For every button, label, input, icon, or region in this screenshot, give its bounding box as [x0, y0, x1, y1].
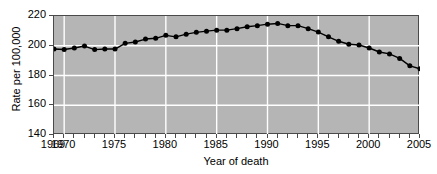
x-axis-tick-mark [84, 134, 85, 138]
y-axis-tick-label: 160 [12, 98, 46, 109]
x-axis-tick-label: 1975 [102, 139, 126, 150]
x-axis-tick-mark [155, 134, 156, 138]
data-point-marker [407, 63, 412, 68]
x-axis-tick-mark [317, 134, 318, 138]
x-axis-tick-mark [399, 134, 400, 138]
x-axis-title: Year of death [53, 155, 419, 167]
data-point-marker [133, 40, 138, 45]
line-chart-figure: Rate per 100,000 220200180160140 1969197… [0, 0, 437, 174]
x-axis-tick-mark [338, 134, 339, 138]
data-point-marker [346, 42, 351, 47]
x-axis-tick-mark [175, 134, 176, 138]
data-point-marker [153, 36, 158, 41]
x-axis-tick-mark [368, 134, 369, 138]
data-point-marker [316, 30, 321, 35]
data-point-marker [214, 28, 219, 33]
x-axis-tick-label: 1980 [153, 139, 177, 150]
x-axis-tick-mark [94, 134, 95, 138]
x-axis-tick-mark [63, 134, 64, 138]
x-axis-tick-mark [206, 134, 207, 138]
x-axis-tick-mark [297, 134, 298, 138]
x-axis-tick-mark [73, 134, 74, 138]
data-point-marker [326, 34, 331, 39]
data-point-marker [377, 50, 382, 55]
x-axis-tick-label: 1995 [305, 139, 329, 150]
data-point-marker [123, 41, 128, 46]
y-axis-tick-label: 180 [12, 69, 46, 80]
x-axis-tick-label: 1970 [51, 139, 75, 150]
x-axis-tick-mark [328, 134, 329, 138]
x-axis-tick-mark [236, 134, 237, 138]
x-axis-tick-mark [114, 134, 115, 138]
data-point-marker [54, 47, 57, 52]
x-axis-tick-mark [409, 134, 410, 138]
x-axis-tick-mark [134, 134, 135, 138]
data-point-marker [204, 29, 209, 34]
x-axis-tick-mark [287, 134, 288, 138]
data-point-marker [255, 23, 260, 28]
x-axis-tick-label: 2000 [356, 139, 380, 150]
data-point-marker [245, 24, 250, 29]
x-axis-tick-mark [185, 134, 186, 138]
data-point-marker [113, 47, 118, 52]
data-point-marker [367, 45, 372, 50]
y-axis-tick-mark [49, 104, 53, 105]
data-point-marker [275, 21, 280, 26]
gridlines [54, 16, 420, 135]
x-axis-tick-mark [256, 134, 257, 138]
data-point-marker [306, 26, 311, 31]
y-axis-tick-mark [49, 15, 53, 16]
data-point-marker [194, 30, 199, 35]
data-point-marker [336, 39, 341, 44]
x-axis-tick-mark [378, 134, 379, 138]
data-point-marker [82, 44, 87, 49]
data-point-marker [72, 45, 77, 50]
x-axis-tick-mark [246, 134, 247, 138]
x-axis-tick-mark [195, 134, 196, 138]
data-point-marker [418, 66, 421, 71]
data-point-marker [285, 23, 290, 28]
data-point-marker [397, 56, 402, 61]
data-point-marker [102, 47, 107, 52]
data-point-marker [143, 37, 148, 42]
x-axis-tick-mark [165, 134, 166, 138]
x-axis-tick-mark [419, 134, 420, 138]
y-axis-tick-mark [49, 45, 53, 46]
x-axis-tick-mark [267, 134, 268, 138]
data-point-marker [387, 51, 392, 56]
y-axis-tick-label: 200 [12, 39, 46, 50]
x-axis-tick-label: 1985 [203, 139, 227, 150]
plot-svg [54, 16, 420, 135]
x-axis-tick-mark [358, 134, 359, 138]
x-axis-tick-mark [277, 134, 278, 138]
x-axis-tick-label: 1990 [254, 139, 278, 150]
data-point-marker [357, 43, 362, 48]
x-axis-tick-label: 2005 [407, 139, 431, 150]
data-point-marker [174, 34, 179, 39]
x-axis-tick-mark [389, 134, 390, 138]
data-point-marker [296, 23, 301, 28]
y-axis-tick-label: 220 [12, 9, 46, 20]
y-axis-tick-mark [49, 75, 53, 76]
x-axis-tick-mark [348, 134, 349, 138]
x-axis-tick-mark [216, 134, 217, 138]
x-axis-tick-mark [145, 134, 146, 138]
x-axis-tick-mark [124, 134, 125, 138]
data-point-marker [224, 28, 229, 33]
data-point-marker [92, 47, 97, 52]
data-point-marker [62, 47, 67, 52]
x-axis-tick-mark [53, 134, 54, 138]
data-point-marker [265, 22, 270, 27]
data-point-marker [163, 33, 168, 38]
x-axis-tick-mark [104, 134, 105, 138]
plot-area [53, 15, 419, 134]
data-point-marker [184, 32, 189, 37]
x-axis-tick-mark [307, 134, 308, 138]
data-point-marker [235, 26, 240, 31]
x-axis-tick-mark [226, 134, 227, 138]
